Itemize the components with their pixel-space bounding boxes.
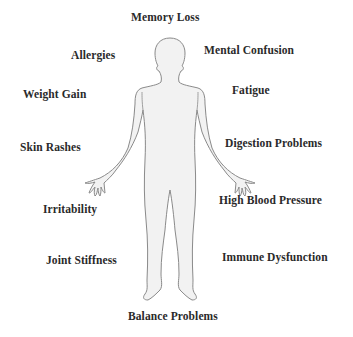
label-fatigue: Fatigue [232, 84, 270, 96]
label-memory-loss: Memory Loss [131, 11, 200, 23]
label-mental-confusion: Mental Confusion [204, 44, 294, 56]
label-high-blood-pressure: High Blood Pressure [219, 194, 322, 206]
label-immune-dysfunction: Immune Dysfunction [222, 251, 328, 263]
label-skin-rashes: Skin Rashes [20, 141, 81, 153]
label-digestion-problems: Digestion Problems [225, 137, 322, 149]
label-irritability: Irritability [43, 203, 97, 215]
label-joint-stiffness: Joint Stiffness [46, 254, 117, 266]
label-allergies: Allergies [71, 49, 115, 61]
label-balance-problems: Balance Problems [128, 310, 218, 322]
label-weight-gain: Weight Gain [23, 88, 86, 100]
human-body-silhouette [0, 0, 353, 337]
